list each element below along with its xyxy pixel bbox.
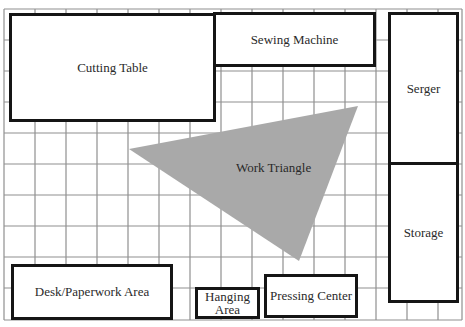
pressing-center-label: Pressing Center	[270, 289, 352, 303]
storage-label: Storage	[404, 226, 444, 240]
zone-pressing-center: Pressing Center	[264, 274, 358, 318]
work-triangle-label: Work Triangle	[236, 160, 311, 176]
zone-sewing-machine: Sewing Machine	[213, 12, 376, 67]
zone-cutting-table: Cutting Table	[9, 13, 216, 122]
hanging-area-label-line2: Area	[215, 303, 240, 316]
sewing-room-floor-plan: Work Triangle Cutting Table Sewing Machi…	[0, 0, 465, 327]
zone-hanging-area: Hanging Area	[195, 287, 260, 319]
desk-paperwork-label: Desk/Paperwork Area	[35, 285, 149, 299]
serger-label: Serger	[407, 82, 441, 96]
zone-serger: Serger	[388, 12, 459, 165]
zone-desk-paperwork-area: Desk/Paperwork Area	[11, 264, 173, 320]
zone-storage: Storage	[388, 162, 459, 303]
sewing-machine-label: Sewing Machine	[251, 33, 339, 47]
cutting-table-label: Cutting Table	[77, 61, 148, 75]
work-triangle-shape	[129, 106, 358, 261]
